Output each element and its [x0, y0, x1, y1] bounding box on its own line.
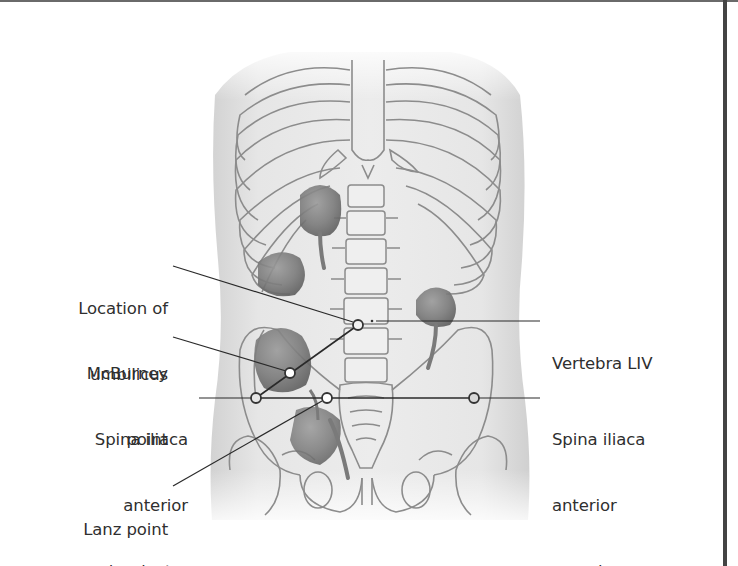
- sias-sinistra-point-icon: [469, 393, 479, 403]
- label-lanz: Lanz point: [83, 475, 168, 563]
- label-line: anterior: [552, 495, 645, 517]
- label-line: McBurney: [87, 363, 168, 385]
- lanz-point-icon: [322, 393, 332, 403]
- vertebra-point-icon: [371, 320, 374, 323]
- label-vertebra-liv: Vertebra LIV: [552, 309, 652, 397]
- label-line: Vertebra LIV: [552, 353, 652, 375]
- sias-dextra-point-icon: [251, 393, 261, 403]
- label-line: Lanz point: [83, 519, 168, 541]
- umbilicus-point-icon: [353, 320, 363, 330]
- label-sias-sinistra: Spina iliaca anterior superior sinistra: [552, 385, 645, 566]
- label-line: Spina iliaca: [63, 429, 188, 451]
- label-line: Location of: [78, 298, 168, 320]
- label-line: Spina iliaca: [552, 429, 645, 451]
- mcburney-point-icon: [285, 368, 295, 378]
- label-line: superior: [552, 561, 645, 566]
